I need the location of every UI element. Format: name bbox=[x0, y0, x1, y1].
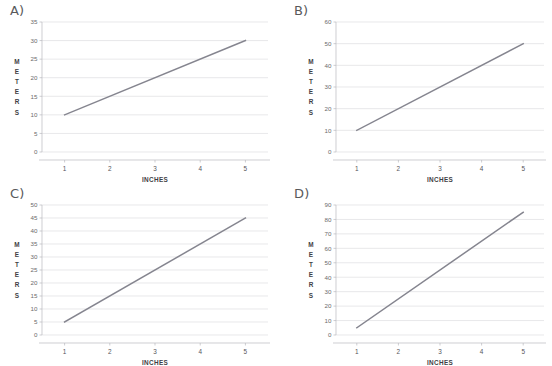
x-tick-label: 4 bbox=[198, 165, 202, 172]
chart-d: 010203040506070809012345INCHESMETERS bbox=[276, 183, 552, 366]
chart-b-svg: 010203040506012345INCHESMETERS bbox=[276, 0, 552, 183]
data-series-line bbox=[357, 212, 523, 328]
x-tick-label: 2 bbox=[397, 348, 401, 355]
chart-a: 0510152025303512345INCHESMETERS bbox=[0, 0, 276, 183]
y-tick-label: 50 bbox=[31, 201, 38, 208]
y-tick-label: 20 bbox=[31, 74, 38, 81]
y-tick-label: 20 bbox=[325, 302, 332, 309]
y-axis-title-letter: E bbox=[309, 271, 314, 278]
chart-b: 010203040506012345INCHESMETERS bbox=[276, 0, 552, 183]
chart-c: 0510152025303540455012345INCHESMETERS bbox=[0, 183, 276, 366]
y-tick-label: 15 bbox=[31, 93, 38, 100]
panel-c: C) 0510152025303540455012345INCHESMETERS bbox=[0, 183, 276, 366]
figure-grid: A) 0510152025303512345INCHESMETERS B) 01… bbox=[0, 0, 552, 366]
y-tick-label: 90 bbox=[325, 201, 332, 208]
x-tick-label: 4 bbox=[480, 348, 484, 355]
y-tick-label: 0 bbox=[34, 331, 38, 338]
x-tick-label: 5 bbox=[244, 348, 248, 355]
y-tick-label: 25 bbox=[31, 55, 38, 62]
x-tick-label: 3 bbox=[153, 165, 157, 172]
x-tick-label: 4 bbox=[198, 348, 202, 355]
y-tick-label: 25 bbox=[31, 266, 38, 273]
y-axis-title-letter: S bbox=[309, 292, 314, 299]
y-axis-title-letter: T bbox=[309, 261, 313, 268]
x-axis-title: INCHES bbox=[427, 176, 454, 183]
panel-a: A) 0510152025303512345INCHESMETERS bbox=[0, 0, 276, 183]
x-tick-label: 1 bbox=[63, 165, 67, 172]
x-tick-label: 5 bbox=[521, 348, 525, 355]
y-axis-title-letter: M bbox=[14, 58, 19, 65]
y-tick-label: 35 bbox=[31, 240, 38, 247]
x-tick-label: 5 bbox=[521, 165, 525, 172]
y-tick-label: 80 bbox=[325, 216, 332, 223]
y-tick-label: 0 bbox=[328, 331, 332, 338]
x-tick-label: 1 bbox=[355, 165, 359, 172]
y-axis-title-letter: E bbox=[15, 271, 20, 278]
x-tick-label: 2 bbox=[108, 165, 112, 172]
y-tick-label: 30 bbox=[31, 253, 38, 260]
chart-a-svg: 0510152025303512345INCHESMETERS bbox=[0, 0, 276, 183]
y-axis-title-letter: T bbox=[15, 261, 19, 268]
x-tick-label: 3 bbox=[438, 348, 442, 355]
y-tick-label: 50 bbox=[325, 40, 332, 47]
x-tick-label: 1 bbox=[63, 348, 67, 355]
x-axis-title: INCHES bbox=[427, 359, 454, 366]
x-tick-label: 2 bbox=[108, 348, 112, 355]
y-axis-title-letter: R bbox=[309, 281, 314, 288]
y-tick-label: 45 bbox=[31, 214, 38, 221]
x-tick-label: 5 bbox=[244, 165, 248, 172]
y-tick-label: 10 bbox=[325, 317, 332, 324]
y-tick-label: 10 bbox=[31, 305, 38, 312]
x-tick-label: 3 bbox=[153, 348, 157, 355]
y-axis-title-letter: M bbox=[14, 241, 19, 248]
y-tick-label: 5 bbox=[34, 130, 38, 137]
chart-d-svg: 010203040506070809012345INCHESMETERS bbox=[276, 183, 552, 366]
y-axis-title-letter: M bbox=[308, 58, 313, 65]
x-axis-title: INCHES bbox=[142, 359, 169, 366]
y-axis-title-letter: M bbox=[308, 241, 313, 248]
panel-d: D) 010203040506070809012345INCHESMETERS bbox=[276, 183, 552, 366]
y-tick-label: 0 bbox=[328, 148, 332, 155]
x-tick-label: 4 bbox=[480, 165, 484, 172]
x-tick-label: 1 bbox=[355, 348, 359, 355]
x-tick-label: 2 bbox=[397, 165, 401, 172]
y-axis-title-letter: E bbox=[309, 251, 314, 258]
y-tick-label: 0 bbox=[34, 148, 38, 155]
y-tick-label: 5 bbox=[34, 318, 38, 325]
y-tick-label: 35 bbox=[31, 18, 38, 25]
y-axis-title-letter: E bbox=[309, 88, 314, 95]
y-axis-title-letter: R bbox=[15, 281, 20, 288]
y-axis-title-letter: T bbox=[309, 78, 313, 85]
y-tick-label: 20 bbox=[31, 279, 38, 286]
y-tick-label: 50 bbox=[325, 259, 332, 266]
y-axis-title-letter: R bbox=[15, 98, 20, 105]
y-tick-label: 10 bbox=[31, 111, 38, 118]
y-tick-label: 40 bbox=[325, 274, 332, 281]
y-tick-label: 30 bbox=[31, 37, 38, 44]
y-axis-title-letter: S bbox=[15, 109, 20, 116]
y-axis-title-letter: E bbox=[15, 68, 20, 75]
y-tick-label: 60 bbox=[325, 18, 332, 25]
y-axis-title-letter: S bbox=[15, 292, 20, 299]
y-axis-title-letter: E bbox=[15, 88, 20, 95]
y-tick-label: 10 bbox=[325, 127, 332, 134]
y-tick-label: 60 bbox=[325, 245, 332, 252]
y-axis-title-letter: S bbox=[309, 109, 314, 116]
y-axis-title-letter: R bbox=[309, 98, 314, 105]
y-tick-label: 30 bbox=[325, 288, 332, 295]
y-axis-title-letter: T bbox=[15, 78, 19, 85]
y-tick-label: 70 bbox=[325, 230, 332, 237]
y-tick-label: 40 bbox=[325, 62, 332, 69]
panel-b: B) 010203040506012345INCHESMETERS bbox=[276, 0, 552, 183]
x-axis-title: INCHES bbox=[142, 176, 169, 183]
y-tick-label: 20 bbox=[325, 105, 332, 112]
y-axis-title-letter: E bbox=[15, 251, 20, 258]
y-tick-label: 30 bbox=[325, 83, 332, 90]
chart-c-svg: 0510152025303540455012345INCHESMETERS bbox=[0, 183, 276, 366]
x-tick-label: 3 bbox=[438, 165, 442, 172]
y-tick-label: 15 bbox=[31, 292, 38, 299]
y-axis-title-letter: E bbox=[309, 68, 314, 75]
y-tick-label: 40 bbox=[31, 227, 38, 234]
